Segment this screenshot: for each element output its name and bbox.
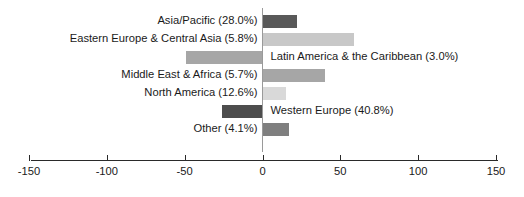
bar (263, 15, 297, 28)
x-axis-tick (263, 155, 264, 161)
x-axis-tick (29, 155, 30, 161)
x-axis-tick (340, 155, 341, 161)
x-axis-tick-label: -50 (177, 164, 193, 178)
bar (263, 87, 286, 100)
bar-label: Other (4.1%) (193, 120, 257, 137)
bar-label: Latin America & the Caribbean (3.0%) (271, 48, 459, 65)
bar-label: Western Europe (40.8%) (271, 102, 394, 119)
x-axis-tick (418, 155, 419, 161)
x-axis-tick-label: -150 (18, 164, 40, 178)
bar-chart: Asia/Pacific (28.0%)Eastern Europe & Cen… (0, 0, 524, 197)
x-axis-tick-label: -100 (96, 164, 118, 178)
x-axis-tick-label: 50 (334, 164, 346, 178)
bar (186, 51, 262, 64)
x-axis-tick (107, 155, 108, 161)
bar (222, 105, 262, 118)
bar (263, 33, 355, 46)
x-axis-tick-label: 100 (409, 164, 428, 178)
bar-label: Asia/Pacific (28.0%) (157, 12, 257, 29)
x-axis-tick (185, 155, 186, 161)
bar-label: North America (12.6%) (144, 84, 257, 101)
plot-area: Asia/Pacific (28.0%)Eastern Europe & Cen… (0, 0, 524, 152)
bar-label: Eastern Europe & Central Asia (5.8%) (70, 30, 258, 47)
bar (263, 69, 325, 82)
bar-label: Middle East & Africa (5.7%) (121, 66, 257, 83)
x-axis-tick-label: 0 (259, 164, 265, 178)
x-axis: -150-100-50050100150 (0, 152, 524, 197)
x-axis-line (31, 160, 498, 161)
bar (263, 123, 289, 136)
x-axis-tick-label: 150 (487, 164, 506, 178)
x-axis-tick (496, 155, 497, 161)
zero-axis-line (262, 8, 263, 152)
